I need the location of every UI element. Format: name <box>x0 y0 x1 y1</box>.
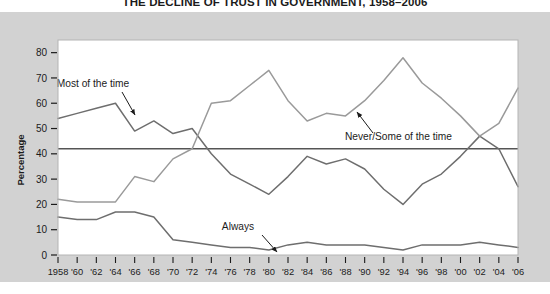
x-axis-tick-label: '98 <box>435 267 447 277</box>
x-axis-tick-label: '88 <box>339 267 351 277</box>
y-axis: 01020304050607080 <box>36 47 57 260</box>
x-axis-tick-label: '78 <box>244 267 256 277</box>
x-axis-tick-label: '90 <box>359 267 371 277</box>
x-axis-tick-label: '96 <box>416 267 428 277</box>
x-axis: 1958'60'62'64'66'68'70'72'74'76'78'80'82… <box>48 257 524 277</box>
x-axis-tick-label: '72 <box>186 267 198 277</box>
y-axis-title: Percentage <box>15 134 26 185</box>
x-axis-tick-label: '74 <box>205 267 217 277</box>
x-axis-tick-label: '64 <box>109 267 121 277</box>
y-axis-tick-label: 70 <box>36 73 48 84</box>
y-axis-tick-label: 30 <box>36 174 48 185</box>
y-axis-tick-label: 80 <box>36 47 48 58</box>
annotation-label: Most of the time <box>57 78 130 89</box>
x-axis-tick-label: '94 <box>397 267 409 277</box>
annotation-label: Always <box>222 221 254 232</box>
x-axis-tick-label: '02 <box>474 267 486 277</box>
x-axis-tick-label: '86 <box>320 267 332 277</box>
x-axis-tick-label: '66 <box>129 267 141 277</box>
x-axis-tick-label: '70 <box>167 267 179 277</box>
y-axis-tick-label: 0 <box>41 250 47 261</box>
x-axis-tick-label: '84 <box>301 267 313 277</box>
y-axis-tick-label: 40 <box>36 148 48 159</box>
x-axis-tick-label: '92 <box>378 267 390 277</box>
line-chart: 01020304050607080 1958'60'62'64'66'68'70… <box>0 12 550 282</box>
x-axis-tick-label: '76 <box>224 267 236 277</box>
x-axis-tick-label: '68 <box>148 267 160 277</box>
figure-panel: 01020304050607080 1958'60'62'64'66'68'70… <box>0 12 550 282</box>
annotation-label: Never/Some of the time <box>345 131 452 142</box>
plot-area-background <box>58 40 518 255</box>
x-axis-tick-label: '00 <box>454 267 466 277</box>
x-axis-tick-label: '06 <box>512 267 524 277</box>
y-axis-tick-label: 50 <box>36 123 48 134</box>
x-axis-tick-label: '82 <box>282 267 294 277</box>
x-axis-tick-label: '80 <box>263 267 275 277</box>
page-title: THE DECLINE OF TRUST IN GOVERNMENT, 1958… <box>0 0 550 8</box>
x-axis-tick-label: 1958 <box>48 267 69 277</box>
y-axis-tick-label: 60 <box>36 98 48 109</box>
x-axis-tick-label: '04 <box>493 267 505 277</box>
x-axis-tick-label: '62 <box>90 267 102 277</box>
chart-screenshot: THE DECLINE OF TRUST IN GOVERNMENT, 1958… <box>0 0 550 294</box>
y-axis-tick-label: 10 <box>36 224 48 235</box>
y-axis-tick-label: 20 <box>36 199 48 210</box>
x-axis-tick-label: '60 <box>71 267 83 277</box>
